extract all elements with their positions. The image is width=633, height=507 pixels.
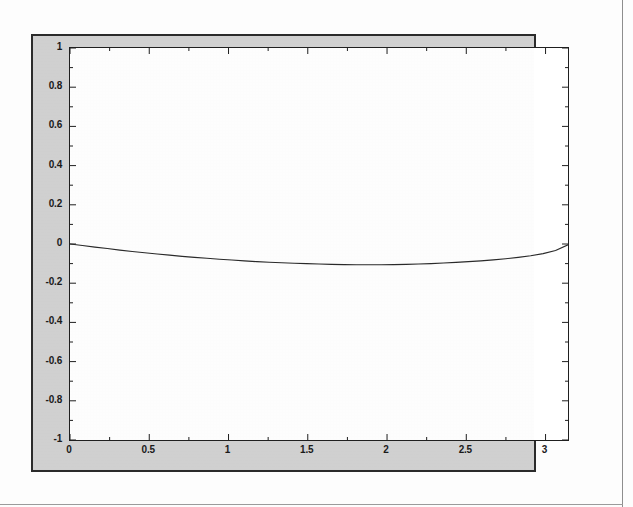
x-tick-label: 0.5 xyxy=(128,445,168,455)
x-tick-label: 3 xyxy=(525,445,565,455)
scanned-page: 10.80.60.40.20-0.2-0.4-0.6-0.8-1 00.511.… xyxy=(0,0,633,507)
x-tick-label: 1.5 xyxy=(287,445,327,455)
plot-axes xyxy=(69,47,569,441)
data-series-line xyxy=(70,244,568,265)
x-tick-label: 1 xyxy=(208,445,248,455)
page-edge-right-rule xyxy=(622,0,623,507)
page-edge-bottom-rule xyxy=(0,504,623,505)
plot-canvas xyxy=(70,48,568,440)
matlab-figure-window: 10.80.60.40.20-0.2-0.4-0.6-0.8-1 00.511.… xyxy=(31,34,536,472)
x-tick-label: 2.5 xyxy=(445,445,485,455)
x-tick-label: 2 xyxy=(366,445,406,455)
x-tick-label: 0 xyxy=(49,445,89,455)
axis-ticks xyxy=(70,48,568,440)
